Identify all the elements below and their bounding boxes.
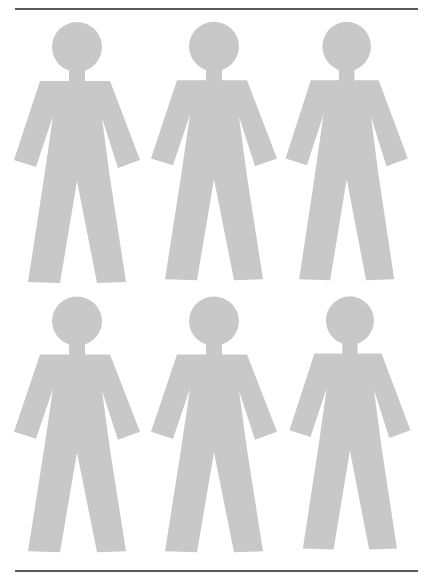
- person-figure-icon: [14, 297, 140, 553]
- bottom-rule: [15, 570, 418, 572]
- figures-grid: [0, 0, 432, 578]
- person-figure-icon: [289, 296, 410, 549]
- person-figure-icon: [14, 22, 140, 283]
- person-figure-icon: [286, 22, 408, 280]
- person-figure-icon: [151, 22, 277, 280]
- person-figure-icon: [151, 297, 277, 553]
